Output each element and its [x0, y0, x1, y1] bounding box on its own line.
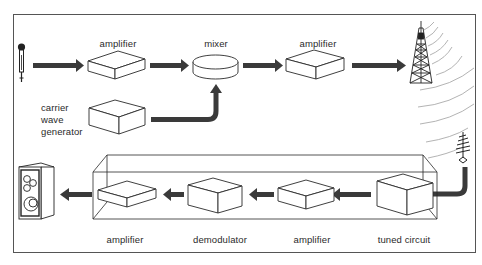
transmitter-tower-icon — [410, 21, 432, 83]
receiving-aerial-icon — [456, 132, 470, 163]
arrow-carrier-to-mixer — [151, 84, 222, 120]
arrow-amplifier-to-mixer — [150, 59, 189, 72]
radio-waves — [418, 22, 474, 158]
tx-amplifier-2-label: amplifier — [300, 38, 337, 49]
arrow-demodulator-to-amplifier — [163, 188, 184, 201]
arrow-mixer-to-amplifier — [243, 59, 283, 72]
carrier-wave-generator-label: carrier wave generator — [41, 102, 83, 138]
arrow-amplifier-to-speaker — [60, 188, 92, 201]
tuned-circuit-box — [377, 174, 433, 215]
tx-amplifier-1-label: amplifier — [100, 38, 137, 49]
outer-frame — [14, 15, 476, 253]
rx-amplifier-1-label: amplifier — [294, 234, 331, 245]
arrow-mic-to-amplifier — [33, 59, 84, 72]
microphone-icon — [18, 43, 25, 82]
carrier-wave-generator-box — [89, 100, 145, 134]
tx-amplifier-1-box — [88, 51, 145, 79]
arrow-amplifier-to-tower — [352, 59, 406, 72]
mixer-label: mixer — [204, 38, 228, 49]
tuned-circuit-label: tuned circuit — [378, 234, 431, 245]
radio-block-diagram: amplifier mixer amplifier carrier wave g… — [0, 0, 482, 265]
tx-amplifier-2-box — [286, 50, 344, 79]
demodulator-box — [188, 178, 242, 213]
mixer-cylinder — [193, 55, 238, 79]
arrow-tuned-to-amplifier — [332, 188, 371, 201]
rx-amplifier-2-label: amplifier — [107, 234, 144, 245]
demodulator-label: demodulator — [193, 234, 247, 245]
arrow-amplifier-to-demodulator — [249, 188, 274, 201]
rx-amplifier-1-box — [278, 180, 334, 209]
loudspeaker-icon — [19, 163, 54, 219]
